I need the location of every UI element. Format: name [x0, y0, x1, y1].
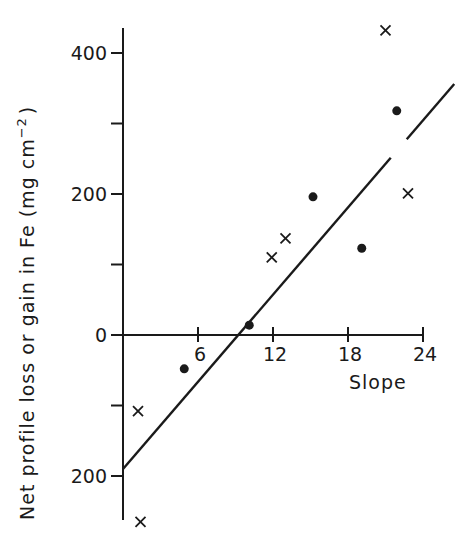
dot-marker	[309, 192, 318, 201]
dot-marker	[245, 321, 254, 330]
cross-marker	[403, 188, 413, 198]
x-tick-label: 18	[338, 343, 362, 365]
data-points	[133, 25, 413, 526]
y-tick-label: 0	[95, 324, 107, 346]
dot-marker	[357, 244, 366, 253]
x-axis-title: Slope	[349, 371, 407, 393]
y-tick-label: 400	[71, 42, 107, 64]
y-axis-title-main: Net profile loss or gain in Fe (mg cm	[16, 138, 38, 520]
x-tick-label: 6	[194, 343, 206, 365]
cross-marker	[381, 25, 391, 35]
regression-line-segment	[407, 84, 455, 139]
tick-labels: 02004002006121824	[71, 42, 437, 487]
cross-marker	[136, 517, 146, 527]
y-axis-title-superscript: −2	[14, 117, 29, 138]
scatter-chart: 02004002006121824 Slope Net profile loss…	[0, 0, 458, 558]
y-axis-title-close: )	[16, 106, 38, 114]
cross-marker	[281, 233, 291, 243]
axes	[111, 28, 423, 520]
cross-marker	[267, 252, 277, 262]
dot-marker	[392, 106, 401, 115]
y-tick-label: 200	[71, 465, 107, 487]
tick-marks	[111, 53, 423, 476]
y-axis-title: Net profile loss or gain in Fe (mg cm−2)	[14, 106, 38, 520]
regression-line-segment	[123, 158, 391, 469]
regression-line	[123, 84, 454, 469]
cross-marker	[133, 406, 143, 416]
y-tick-label: 200	[71, 183, 107, 205]
dot-marker	[180, 364, 189, 373]
x-tick-label: 24	[413, 343, 437, 365]
x-tick-label: 12	[263, 343, 287, 365]
